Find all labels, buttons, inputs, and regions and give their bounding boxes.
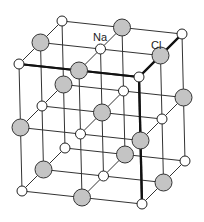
- nacl-lattice-diagram: Na Cl: [0, 0, 204, 222]
- na-atom: [180, 156, 190, 166]
- cl-atom: [114, 19, 131, 36]
- cl-atom: [117, 146, 134, 163]
- cl-atom: [155, 174, 172, 191]
- na-atom: [17, 186, 27, 196]
- cl-atom: [71, 62, 88, 79]
- na-atom: [57, 16, 67, 26]
- cl-atom: [32, 34, 49, 51]
- cl-atom: [12, 119, 29, 136]
- label-na: Na: [93, 31, 108, 43]
- na-atom: [137, 199, 147, 209]
- cl-atom: [94, 104, 111, 121]
- na-atom: [119, 86, 129, 96]
- lattice-atoms: [12, 16, 192, 209]
- na-atom: [96, 44, 106, 54]
- cl-atom: [74, 189, 91, 206]
- cl-atom: [35, 161, 52, 178]
- na-atom: [37, 101, 47, 111]
- cl-atom: [175, 89, 192, 106]
- na-atom: [157, 114, 167, 124]
- na-atom: [60, 143, 70, 153]
- na-atom: [177, 29, 187, 39]
- na-atom: [134, 72, 144, 82]
- na-atom: [99, 171, 109, 181]
- label-cl: Cl: [151, 39, 161, 51]
- na-atom: [76, 129, 86, 139]
- cl-atom: [132, 132, 149, 149]
- na-atom: [14, 59, 24, 69]
- cl-atom: [55, 76, 72, 93]
